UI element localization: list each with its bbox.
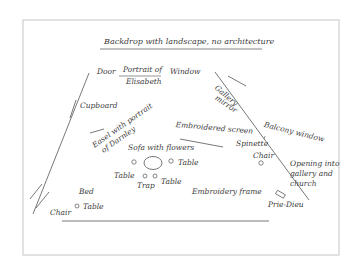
backdrop-title: Backdrop with landscape, no architecture: [104, 38, 274, 46]
bed-table-label: Table: [83, 203, 104, 211]
prie-dieu-label: Prie-Dieu: [268, 201, 304, 209]
window-label: Window: [170, 68, 201, 76]
chair-right-icon: [259, 161, 263, 165]
portrait-label-bottom: Elisabeth: [126, 78, 162, 86]
portrait-label-top: Portrait of: [123, 66, 162, 74]
table-center-label: Table: [161, 178, 182, 186]
table-right-of-sofa-label: Table: [178, 159, 199, 167]
table-right-icon: [169, 159, 173, 163]
bed-label: Bed: [79, 188, 94, 196]
prie-dieu-icon: [276, 190, 286, 198]
sofa-label: Sofa with flowers: [128, 144, 194, 152]
stage-plan-diagram: Backdrop with landscape, no architecture…: [0, 0, 361, 270]
opening-label-1: Opening into: [290, 160, 339, 168]
door-label: Door: [97, 68, 116, 76]
gallery-mirror-line: [228, 76, 246, 86]
spinette-label: Spinette: [236, 140, 268, 148]
frame-border: [23, 20, 339, 255]
cupboard-label: Cupboard: [80, 102, 118, 110]
table-left-label: Table: [114, 172, 135, 180]
easel-line: [90, 129, 104, 133]
opening-label-3: church: [290, 180, 316, 188]
trap-icon-1: [143, 174, 147, 178]
trap-label: Trap: [137, 182, 155, 190]
left-wing-line-2: [36, 192, 49, 208]
chair-left-label: Chair: [50, 209, 71, 217]
trap-icon-2: [153, 174, 157, 178]
table-left-icon: [132, 160, 136, 164]
opening-label-2: gallery and: [290, 170, 333, 178]
sofa-icon: [144, 157, 162, 170]
bed-table-icon: [75, 204, 79, 208]
chair-right-label: Chair: [253, 152, 274, 160]
embroidery-frame-label: Embroidery frame: [192, 188, 262, 196]
